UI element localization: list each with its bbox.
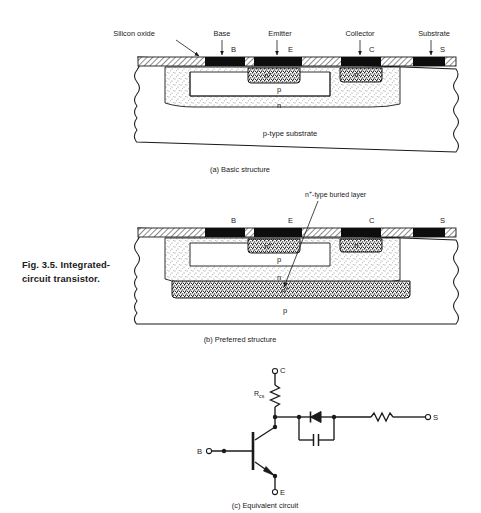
- subcaption-a: (a) Basic structure: [210, 165, 270, 174]
- subcaption-b: (b) Preferred structure: [204, 335, 277, 344]
- label-substrate-p-b: p: [283, 306, 287, 315]
- buried-layer-region-b: [172, 281, 410, 298]
- label-substrate-a: p-type substrate: [263, 129, 317, 138]
- callout-silicon-oxide: Silicon oxide: [113, 29, 155, 38]
- collector-contact-a: [341, 57, 381, 66]
- callout-base: Base: [214, 29, 231, 38]
- base-node-dot: [222, 449, 226, 453]
- terminal-label-b-a: B: [231, 45, 236, 54]
- substrate-contact-b: [413, 228, 445, 237]
- emitter-contact-a: [254, 57, 302, 66]
- terminal-label-b-b: B: [231, 216, 236, 225]
- label-base-p-b: p: [277, 255, 281, 264]
- terminal-label-s-a: S: [440, 45, 445, 54]
- emitter-nplus-region-a: [248, 68, 300, 83]
- collector-contact-b: [341, 228, 381, 237]
- substrate-contact-a: [413, 57, 445, 66]
- emitter-nplus-region-b: [248, 239, 300, 253]
- terminal-label-e-c: E: [280, 488, 285, 497]
- label-collector-n-a: n: [277, 101, 281, 110]
- label-base-p-a: p: [277, 85, 281, 94]
- emitter-contact-b: [254, 228, 302, 237]
- terminal-label-c-c: C: [280, 366, 286, 375]
- callout-substrate: Substrate: [418, 29, 450, 38]
- base-contact-a: [205, 57, 245, 66]
- figure-caption-line2: circuit transistor.: [22, 273, 100, 284]
- label-collector-n-b: n: [277, 273, 281, 282]
- subcaption-c: (c) Equivalent circuit: [232, 501, 299, 510]
- terminal-label-e-b: E: [288, 216, 293, 225]
- terminal-label-c-a: C: [369, 45, 375, 54]
- base-contact-b: [205, 228, 245, 237]
- callout-emitter: Emitter: [268, 29, 292, 38]
- callout-collector: Collector: [345, 29, 375, 38]
- terminal-label-s-b: S: [440, 216, 445, 225]
- figure-caption-line1: Fig. 3.5. Integrated-: [22, 259, 110, 270]
- annotation-buried-layer: n+-type buried layer: [305, 189, 367, 199]
- terminal-label-b-c: B: [197, 447, 202, 456]
- terminal-label-c-b: C: [369, 216, 375, 225]
- figure-integrated-circuit-transistor: n+ n+ p n p-type substrate B E C S Silic…: [0, 0, 481, 513]
- terminal-label-s-c: S: [433, 413, 438, 422]
- terminal-label-e-a: E: [288, 45, 293, 54]
